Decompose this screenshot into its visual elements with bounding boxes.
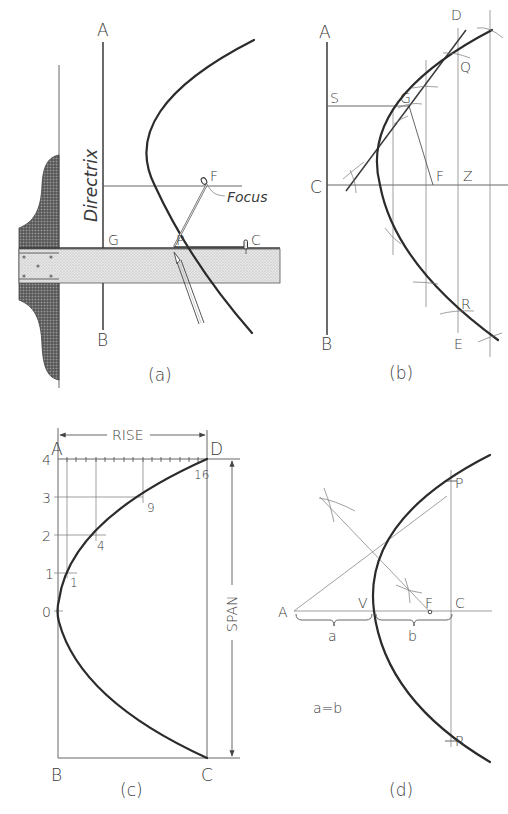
label-E: E bbox=[454, 336, 463, 352]
label-S: S bbox=[330, 90, 339, 106]
label-B: B bbox=[321, 334, 332, 354]
panel-c: RISE SPAN 4 3 2 1 0 16 9 bbox=[42, 427, 240, 800]
focus-leader bbox=[208, 186, 225, 196]
rise-label: RISE bbox=[112, 427, 144, 443]
row-number-4: 4 bbox=[42, 452, 51, 468]
row-number-2: 2 bbox=[42, 528, 51, 544]
label-R: R bbox=[461, 296, 471, 312]
focus-pin bbox=[200, 177, 208, 185]
bisector-arcs bbox=[319, 488, 422, 603]
panel-d: a b a=b A V F C P R (d) bbox=[278, 455, 492, 800]
caption-c: (c) bbox=[120, 780, 143, 800]
label-A: A bbox=[319, 22, 331, 42]
label-F: F bbox=[436, 168, 444, 184]
brace-label-b: b bbox=[408, 628, 417, 644]
GF-line bbox=[409, 106, 433, 185]
offset-number-1: 1 bbox=[70, 576, 78, 590]
panel-b: A B C S G F Z bbox=[310, 7, 508, 383]
caption-b: (b) bbox=[389, 363, 413, 383]
focus-label: Focus bbox=[227, 189, 267, 205]
brace-a bbox=[296, 614, 372, 626]
parabola-curve bbox=[58, 459, 208, 758]
t-square-blade bbox=[19, 249, 280, 283]
parabola-constructions-figure: A B G Directrix F Focus P C (a) A bbox=[0, 0, 508, 814]
panel-a: A B G Directrix F Focus P C (a) bbox=[19, 20, 280, 388]
perpendicular-bisector bbox=[320, 497, 431, 613]
offset-number-4: 4 bbox=[97, 539, 105, 553]
parabola-curve bbox=[146, 40, 254, 333]
label-C: C bbox=[310, 177, 322, 197]
tangent-line bbox=[346, 30, 466, 191]
label-D: D bbox=[210, 439, 223, 459]
caption-a: (a) bbox=[148, 365, 172, 385]
label-P: P bbox=[455, 475, 463, 491]
offset-number-9: 9 bbox=[147, 501, 155, 515]
label-V: V bbox=[358, 595, 368, 611]
label-B: B bbox=[97, 330, 108, 350]
equation-label: a=b bbox=[313, 700, 342, 716]
label-F: F bbox=[210, 168, 218, 184]
row-number-3: 3 bbox=[42, 490, 51, 506]
label-P: P bbox=[176, 232, 184, 248]
label-C: C bbox=[455, 595, 465, 611]
span-label: SPAN bbox=[224, 596, 240, 632]
label-Q: Q bbox=[460, 59, 471, 75]
label-R: R bbox=[455, 733, 465, 749]
label-A: A bbox=[51, 439, 63, 459]
label-D: D bbox=[451, 7, 462, 23]
brace-b bbox=[376, 614, 452, 626]
label-F: F bbox=[425, 595, 433, 611]
label-A: A bbox=[97, 20, 109, 40]
label-C: C bbox=[251, 232, 261, 248]
top-ticks bbox=[67, 457, 198, 462]
row-number-1: 1 bbox=[45, 566, 54, 582]
offset-number-16: 16 bbox=[194, 468, 209, 482]
label-C: C bbox=[201, 765, 213, 785]
label-Z: Z bbox=[463, 168, 473, 184]
caption-d: (d) bbox=[389, 780, 413, 800]
row-number-0: 0 bbox=[42, 604, 51, 620]
brace-label-a: a bbox=[328, 628, 337, 644]
AP-line bbox=[294, 496, 447, 611]
pin-C bbox=[244, 240, 248, 249]
directrix-label: Directrix bbox=[81, 148, 101, 222]
label-A: A bbox=[278, 604, 288, 620]
label-G: G bbox=[108, 232, 119, 248]
label-B: B bbox=[51, 765, 62, 785]
